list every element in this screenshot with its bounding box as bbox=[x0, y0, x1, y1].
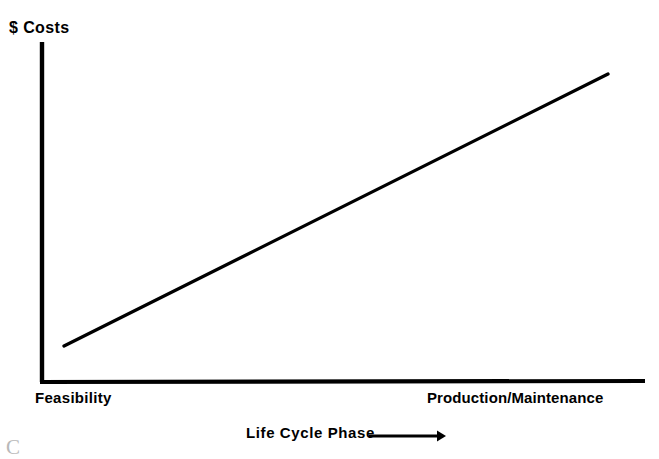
cost-vs-lifecycle-phase-chart: $ Costs Feasibility Production/Maintenan… bbox=[0, 0, 659, 459]
x-axis-arrow-icon bbox=[369, 431, 446, 442]
scan-edge-artifact: C bbox=[6, 437, 40, 459]
cost-trend-line bbox=[64, 74, 608, 346]
x-tick-label-production-maintenance: Production/Maintenance bbox=[427, 390, 603, 405]
x-axis-line bbox=[40, 381, 645, 382]
x-axis-title: Life Cycle Phase bbox=[246, 425, 375, 440]
x-tick-label-feasibility: Feasibility bbox=[35, 390, 112, 405]
y-axis-title: $ Costs bbox=[9, 20, 70, 36]
